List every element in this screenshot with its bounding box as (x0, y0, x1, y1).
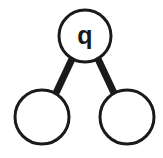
node-root-label: q (77, 21, 92, 49)
node-left-child[interactable] (15, 90, 69, 144)
node-right-child[interactable] (100, 90, 154, 144)
tree-diagram: q (0, 0, 163, 158)
tree-diagram-canvas: q (0, 0, 163, 158)
